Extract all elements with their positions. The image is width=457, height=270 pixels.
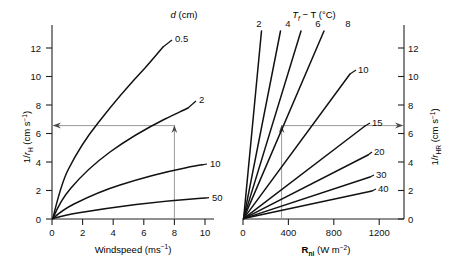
right-x-tick-label-0: 0 xyxy=(240,227,245,238)
left-y-tick-label-4: 4 xyxy=(36,157,41,168)
left-y-ticks xyxy=(46,48,52,219)
right-leader-10 xyxy=(350,70,356,74)
right-curve-label-30: 30 xyxy=(376,169,387,180)
left-leader-2 xyxy=(188,101,196,108)
right-y-tick-label-6: 6 xyxy=(408,128,413,139)
left-curve-label-50: 50 xyxy=(212,192,223,203)
right-x-tick-label-400: 400 xyxy=(280,227,296,238)
left-y-axis-title-tail: ) xyxy=(21,111,32,114)
figure-root: 0 2 4 6 8 10 12 0 2 4 6 8 10 Windspee xyxy=(0,0,457,270)
right-curve-4 xyxy=(244,31,281,219)
right-x-axis-title-units: (W m xyxy=(317,244,340,255)
left-leader-50 xyxy=(205,198,209,199)
right-y-axis-title: 1/rHR (cm s−1) xyxy=(429,108,442,165)
left-leader-10 xyxy=(202,164,207,165)
right-leader-40 xyxy=(372,189,376,191)
left-panel-title-units: (cm) xyxy=(178,9,197,20)
left-curve-label-10: 10 xyxy=(210,158,221,169)
right-y-ticks xyxy=(398,48,404,219)
left-y-tick-label-2: 2 xyxy=(36,185,41,196)
left-curve-2 xyxy=(53,108,188,219)
left-x-ticks xyxy=(52,219,205,225)
left-panel-title: d (cm) xyxy=(171,9,198,20)
right-y-tick-label-12: 12 xyxy=(408,43,419,54)
right-curve-20 xyxy=(244,155,368,219)
right-x-tick-label-800: 800 xyxy=(326,227,342,238)
right-x-axis-title: Rni (W m−2) xyxy=(302,244,351,257)
left-y-tick-label-10: 10 xyxy=(30,71,41,82)
left-leader-0p5 xyxy=(163,40,172,47)
left-x-axis-title: Windspeed (ms−1) xyxy=(95,243,172,255)
left-y-tick-label-8: 8 xyxy=(36,100,41,111)
right-y-tick-label-10: 10 xyxy=(408,71,419,82)
right-panel: 0 2 4 6 8 10 12 0 400 800 1200 Rni (W m−… xyxy=(240,9,441,257)
right-y-tick-label-8: 8 xyxy=(408,100,413,111)
right-y-axis-title-units: (cm s xyxy=(429,119,440,142)
left-x-tick-label-6: 6 xyxy=(141,227,146,238)
right-curves xyxy=(244,31,372,219)
left-curve-10 xyxy=(53,165,202,219)
right-x-axis-title-tail: ) xyxy=(347,244,350,255)
left-x-axis-title-tail: ) xyxy=(168,244,171,255)
right-y-tick-label-4: 4 xyxy=(408,157,413,168)
right-y-axis-title-tail: ) xyxy=(429,108,440,111)
left-y-axis-title-units: (cm s xyxy=(21,121,32,144)
right-curve-30 xyxy=(244,177,370,219)
left-construction-lines xyxy=(53,123,178,219)
right-curve-label-2: 2 xyxy=(256,18,261,29)
left-curve-50 xyxy=(53,198,205,219)
left-curve-0p5 xyxy=(53,47,163,219)
right-curve-label-8: 8 xyxy=(345,18,350,29)
left-y-tick-label-12: 12 xyxy=(30,43,41,54)
right-curve-label-4: 4 xyxy=(285,18,290,29)
right-curve-label-20: 20 xyxy=(374,146,385,157)
right-y-axis-title-subscript: HR xyxy=(435,145,442,155)
left-x-tick-label-2: 2 xyxy=(80,227,85,238)
right-panel-title: Tf − T (°C) xyxy=(292,9,336,22)
right-curve-label-10: 10 xyxy=(358,64,369,75)
right-curve-15 xyxy=(244,126,365,219)
left-curves xyxy=(53,47,205,219)
right-x-tick-label-1200: 1200 xyxy=(369,227,390,238)
left-x-tick-label-8: 8 xyxy=(172,227,177,238)
left-x-tick-label-0: 0 xyxy=(49,227,54,238)
left-curve-label-0p5: 0.5 xyxy=(175,33,188,44)
right-leader-30 xyxy=(370,175,374,177)
left-curve-leaders xyxy=(163,40,209,198)
right-curve-leaders xyxy=(350,70,376,191)
left-y-tick-label-0: 0 xyxy=(36,214,41,225)
right-curve-label-15: 15 xyxy=(372,117,383,128)
left-x-tick-label-4: 4 xyxy=(111,227,116,238)
right-x-ticks xyxy=(243,219,379,225)
right-curve-label-6: 6 xyxy=(315,18,320,29)
left-panel: 0 2 4 6 8 10 12 0 2 4 6 8 10 Windspee xyxy=(21,9,223,255)
left-x-tick-label-10: 10 xyxy=(200,227,211,238)
left-y-axis-title: 1/rH (cm s−1) xyxy=(21,111,34,163)
left-x-axis-title-main: Windspeed (ms xyxy=(95,244,161,255)
right-curve-label-40: 40 xyxy=(378,183,389,194)
nomogram-figure: 0 2 4 6 8 10 12 0 2 4 6 8 10 Windspee xyxy=(0,0,457,270)
right-leader-20 xyxy=(368,152,372,155)
left-curve-label-2: 2 xyxy=(199,94,204,105)
right-y-tick-label-2: 2 xyxy=(408,185,413,196)
right-y-tick-label-0: 0 xyxy=(408,214,413,225)
left-y-tick-label-6: 6 xyxy=(36,128,41,139)
